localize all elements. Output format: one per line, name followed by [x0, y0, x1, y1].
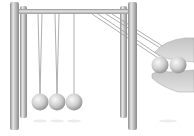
- ball-5-pulled: [170, 57, 187, 74]
- ball-2: [49, 94, 66, 111]
- front-left-post: [10, 2, 19, 130]
- ball-4-pulled: [152, 57, 169, 74]
- newtons-cradle-illustration: [0, 0, 194, 136]
- ball-1: [32, 94, 49, 111]
- front-right-post: [128, 2, 137, 130]
- top-bar: [17, 9, 133, 14]
- ball-3: [66, 94, 83, 111]
- ball-shadows: [33, 120, 177, 123]
- back-left-post: [20, 6, 27, 118]
